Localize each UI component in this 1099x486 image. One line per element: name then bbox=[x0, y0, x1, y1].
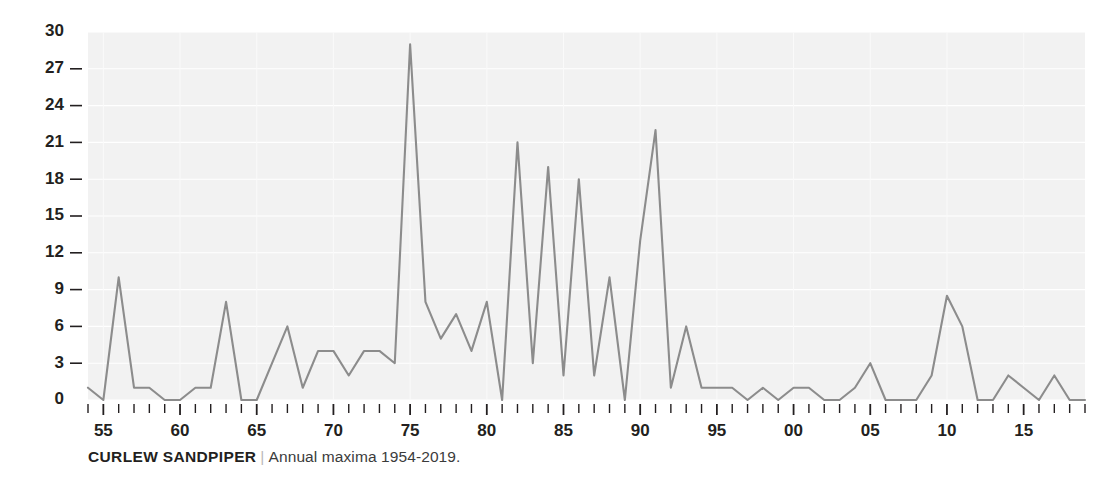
x-axis-tick-label: 80 bbox=[477, 421, 496, 440]
y-axis-tick-marks bbox=[70, 69, 82, 363]
y-axis-tick-label: 9 bbox=[55, 279, 64, 298]
chart-figure: 036912151821242730 556065707580859095000… bbox=[0, 0, 1099, 486]
y-axis-tick-label: 27 bbox=[45, 58, 64, 77]
caption-species-name: CURLEW SANDPIPER bbox=[88, 448, 256, 465]
x-axis-tick-label: 75 bbox=[401, 421, 420, 440]
x-axis-tick-label: 05 bbox=[861, 421, 880, 440]
chart-caption: CURLEW SANDPIPER|Annual maxima 1954-2019… bbox=[88, 448, 460, 466]
y-axis-tick-label: 18 bbox=[45, 169, 64, 188]
y-axis-tick-label: 21 bbox=[45, 132, 64, 151]
x-axis-tick-marks bbox=[88, 404, 1085, 415]
x-axis-tick-label: 15 bbox=[1014, 421, 1033, 440]
x-axis-tick-label: 65 bbox=[247, 421, 266, 440]
x-axis-tick-label: 85 bbox=[554, 421, 573, 440]
x-axis-tick-label: 55 bbox=[94, 421, 113, 440]
x-axis-tick-labels: 55606570758085909500051015 bbox=[94, 421, 1033, 440]
x-axis-tick-label: 60 bbox=[171, 421, 190, 440]
y-axis-tick-label: 3 bbox=[55, 353, 64, 372]
y-axis-tick-label: 0 bbox=[55, 389, 64, 408]
y-axis-tick-label: 24 bbox=[45, 95, 64, 114]
x-axis-tick-label: 10 bbox=[937, 421, 956, 440]
x-axis-tick-label: 70 bbox=[324, 421, 343, 440]
caption-separator: | bbox=[256, 448, 268, 465]
y-axis-tick-label: 12 bbox=[45, 242, 64, 261]
x-axis-tick-label: 95 bbox=[707, 421, 726, 440]
y-axis-tick-label: 30 bbox=[45, 21, 64, 40]
caption-description: Annual maxima 1954-2019. bbox=[269, 448, 461, 465]
y-axis-tick-label: 15 bbox=[45, 205, 64, 224]
y-axis-tick-label: 6 bbox=[55, 316, 64, 335]
y-axis-tick-labels: 036912151821242730 bbox=[45, 21, 64, 408]
x-axis-tick-label: 90 bbox=[631, 421, 650, 440]
x-axis-tick-label: 00 bbox=[784, 421, 803, 440]
line-chart: 036912151821242730 556065707580859095000… bbox=[0, 0, 1099, 440]
